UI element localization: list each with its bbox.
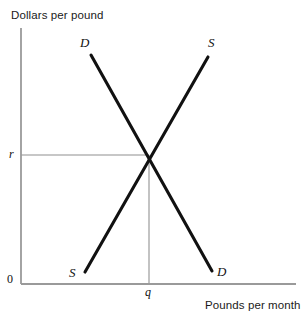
equilibrium-price-tick-label: r	[9, 147, 14, 162]
equilibrium-quantity-tick-label: q	[145, 285, 151, 300]
demand-curve	[91, 55, 212, 271]
supply-curve	[85, 57, 208, 272]
demand-curve-label-bottom: D	[217, 264, 226, 280]
demand-curve-label-top: D	[80, 35, 89, 51]
y-axis-title: Dollars per pound	[11, 9, 103, 21]
x-axis-title: Pounds per month	[205, 299, 301, 311]
origin-label: 0	[7, 272, 13, 287]
supply-curve-label-bottom: S	[69, 265, 76, 281]
supply-demand-chart: Dollars per pound Pounds per month 0 r q…	[0, 0, 307, 323]
chart-canvas	[0, 0, 307, 323]
supply-curve-label-top: S	[208, 35, 215, 51]
